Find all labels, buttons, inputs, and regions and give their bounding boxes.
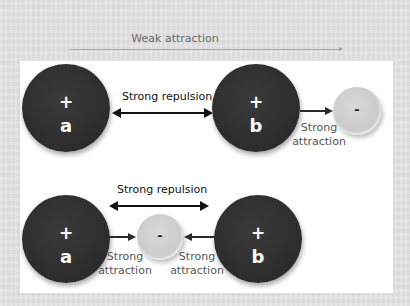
negative-charge-icon: - (354, 102, 359, 117)
weak-attraction-line (70, 49, 340, 50)
repulsion-arrow (119, 112, 206, 114)
nucleus-label: b (214, 247, 302, 267)
positive-charge-icon: + (214, 225, 302, 242)
repulsion-arrow (116, 205, 202, 207)
negative-charge-icon: - (157, 228, 162, 243)
weak-attraction-arrowhead-icon (339, 47, 343, 51)
positive-charge-icon: + (212, 94, 300, 111)
attraction-arrow (300, 110, 326, 112)
right-attraction-label: Strong attraction (168, 250, 226, 278)
nucleus-a-top: + a (22, 64, 110, 152)
arrow-right-icon (325, 107, 333, 115)
attraction-label: Strong attraction (290, 121, 348, 149)
positive-charge-icon: + (22, 225, 110, 242)
left-attraction-arrow (106, 236, 130, 238)
weak-attraction-label: Weak attraction (0, 32, 410, 45)
left-attraction-label: Strong attraction (96, 250, 154, 278)
nucleus-b-top: + b (212, 64, 300, 152)
arrow-right-icon (200, 201, 209, 211)
arrow-right-icon (128, 233, 136, 241)
repulsion-label: Strong repulsion (122, 90, 212, 103)
repulsion-label: Strong repulsion (117, 183, 207, 196)
nucleus-b-bottom: + b (214, 195, 302, 283)
right-attraction-arrow (190, 236, 215, 238)
nucleus-label: a (22, 116, 110, 136)
nucleus-label: b (212, 116, 300, 136)
positive-charge-icon: + (22, 94, 110, 111)
